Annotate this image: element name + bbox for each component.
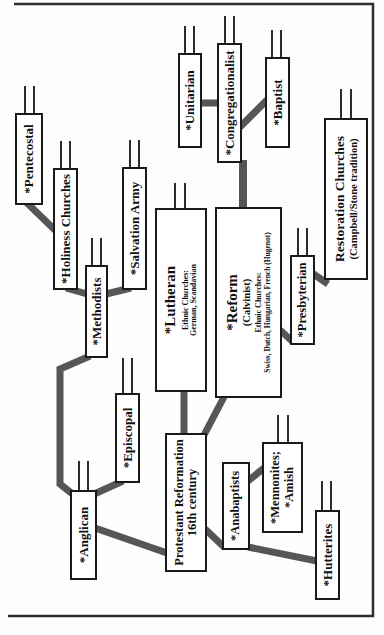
node-holiness-churches: *Holiness Churches — [53, 168, 78, 290]
node-congregationalist: *Congregationalist — [217, 43, 242, 163]
node-anglican-label: *Anglican — [77, 507, 91, 563]
node-lutheran-sub2: German, Scandavian — [190, 264, 198, 336]
node-baptist-label: *Baptist — [271, 79, 285, 125]
stub-unitarian — [185, 26, 194, 54]
node-hutterites-label: *Hutterites — [321, 524, 335, 587]
stub-methodists — [92, 238, 101, 266]
node-presbyterian-label: *Presbyterian — [296, 263, 309, 338]
edge-reformation-anglican — [95, 528, 167, 553]
stub-mennonites-amish — [278, 415, 288, 443]
node-mennonites-line2: *Amish — [283, 467, 296, 508]
edge-congregationalist-baptist — [240, 100, 267, 127]
stub-hutterites — [322, 481, 331, 511]
node-methodists: *Methodists — [85, 265, 108, 358]
stub-restoration-churches — [341, 89, 351, 119]
node-reform-title: *Reform — [225, 274, 241, 331]
stub-episcopal — [123, 358, 132, 394]
node-anabaptists-label: *Anabaptists — [229, 471, 242, 541]
node-hutterites: *Hutterites — [315, 510, 340, 600]
node-salvation-army-label: *Salvation Army — [128, 182, 142, 276]
node-baptist: *Baptist — [265, 57, 290, 148]
node-protestant-reformation: Protestant Reformation 16th century — [165, 433, 207, 572]
node-restoration-subtitle: (Campbell/Stone tradition) — [348, 138, 359, 259]
node-episcopal-label: *Episcopal — [121, 408, 135, 469]
stub-presbyterian — [298, 228, 307, 256]
scanned-diagram-page: { "colors": { "connector": "#565656", "s… — [0, 0, 384, 635]
node-episcopal: *Episcopal — [115, 393, 140, 483]
node-presbyterian: *Presbyterian — [290, 255, 315, 345]
stub-salvation-army — [130, 140, 139, 168]
edge-anglican-methodists — [60, 356, 90, 496]
edge-holiness-pentecostal — [26, 202, 56, 231]
stub-congregationalist — [225, 16, 234, 44]
denomination-tree-stage: *Pentecostal *Holiness Churches *Methodi… — [0, 0, 384, 635]
node-anabaptists: *Anabaptists — [222, 462, 250, 550]
stub-holiness-churches — [61, 141, 70, 169]
node-mennonites-line1: *Mennonites; — [269, 451, 282, 524]
node-salvation-army: *Salvation Army — [122, 167, 147, 290]
node-reform-sub2: Swiss, Dutch, Hungarian, French (Hugenot… — [264, 232, 272, 373]
node-methodists-label: *Methodists — [90, 278, 104, 346]
node-reformation-subtitle: 16th century — [186, 469, 199, 537]
node-pentecostal: *Pentecostal — [15, 113, 43, 205]
node-reform: *Reform (Calvinist) Ethnic Churches: Swi… — [215, 207, 282, 398]
node-lutheran-title: *Lutheran — [163, 266, 179, 334]
node-holiness-churches-label: *Holiness Churches — [59, 174, 73, 284]
node-mennonites-amish: *Mennonites; *Amish — [262, 442, 303, 533]
stub-pentecostal — [25, 86, 34, 114]
node-reform-subtitle: (Calvinist) — [241, 279, 252, 326]
stub-anglican — [79, 461, 88, 491]
edge-reformation-reform — [203, 395, 225, 437]
node-restoration-churches: Restoration Churches (Campbell/Stone tra… — [324, 118, 368, 280]
node-lutheran: *Lutheran Ethnic Churches: German, Scand… — [155, 208, 207, 392]
node-anglican: *Anglican — [70, 490, 97, 580]
stub-baptist — [272, 30, 281, 58]
node-pentecostal-label: *Pentecostal — [22, 124, 36, 193]
stub-lutheran — [175, 183, 185, 209]
node-unitarian-label: *Unitarian — [183, 70, 197, 131]
node-congregationalist-label: *Congregationalist — [223, 50, 237, 155]
node-unitarian: *Unitarian — [178, 53, 202, 148]
edge-anabaptists-hutterites — [248, 547, 317, 561]
node-restoration-title: Restoration Churches — [333, 136, 347, 262]
